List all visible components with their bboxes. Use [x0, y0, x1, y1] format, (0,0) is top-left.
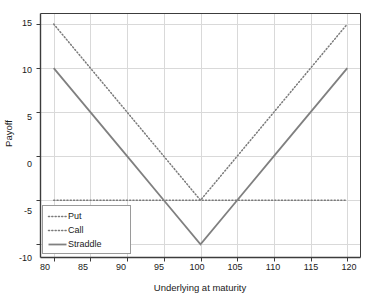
x-tick-label-115: 115	[296, 262, 326, 272]
x-tick-label-105: 105	[220, 262, 250, 272]
y-tick-label-0: 0	[8, 159, 32, 169]
x-tick-label-110: 110	[258, 262, 288, 272]
x-tick-label-80: 80	[30, 262, 60, 272]
chart-figure: Payoff Underlying at maturity 15 10 5 0 …	[0, 0, 372, 299]
y-tick-label-neg10: -10	[6, 253, 32, 263]
legend-label-put: Put	[68, 211, 82, 221]
y-tick-label-10: 10	[8, 65, 32, 75]
y-tick-label-5: 5	[8, 112, 32, 122]
x-tick-label-85: 85	[68, 262, 98, 272]
x-tick-label-90: 90	[106, 262, 136, 272]
y-tick-label-neg5: -5	[8, 206, 32, 216]
x-tick-label-100: 100	[182, 262, 212, 272]
payoff-chart-plot	[0, 0, 372, 299]
legend-label-call: Call	[68, 225, 84, 235]
x-tick-label-95: 95	[144, 262, 174, 272]
y-tick-label-15: 15	[8, 18, 32, 28]
legend-label-straddle: Straddle	[68, 239, 102, 249]
x-tick-label-120: 120	[334, 262, 364, 272]
x-axis-label: Underlying at maturity	[40, 282, 360, 293]
